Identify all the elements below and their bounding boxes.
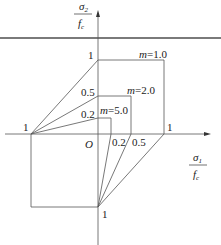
failure-envelope-diagram: σ2 fc σ1 fc 1 0.5 0.2 m=1.0 m=2.0 m=5.0 … (0, 0, 221, 245)
envelope-m1 (31, 60, 164, 207)
origin-label: O (85, 138, 93, 150)
y-axis-arrow-icon (96, 10, 100, 17)
curve-label-m1: m=1.0 (139, 48, 167, 60)
right-tick-1: 1 (167, 121, 173, 133)
x-tick-0.2: 0.2 (112, 136, 126, 148)
y-axis-label-denominator: fc (78, 17, 85, 31)
x-axis-label-denominator: fc (193, 168, 200, 182)
x-axis-arrow-icon (204, 132, 211, 136)
y-tick-1: 1 (88, 49, 94, 61)
left-tick-1: 1 (23, 121, 29, 133)
y-tick-0.2: 0.2 (81, 108, 95, 120)
x-axis-label-numerator: σ1 (193, 151, 202, 165)
curve-label-m2: m=2.0 (127, 84, 155, 96)
envelope-m5 (31, 118, 111, 207)
curve-label-m5: m=5.0 (100, 104, 128, 116)
y-axis-label-numerator: σ2 (79, 0, 88, 14)
y-tick-0.5: 0.5 (81, 86, 95, 98)
x-tick-0.5: 0.5 (132, 136, 146, 148)
bottom-tick-1: 1 (102, 208, 108, 220)
